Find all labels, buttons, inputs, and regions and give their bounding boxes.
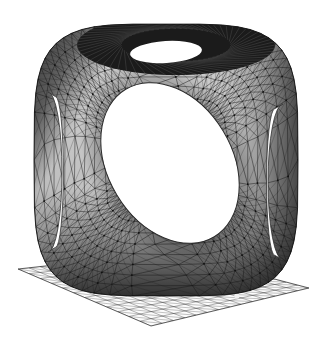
render-viewport: [0, 0, 336, 339]
mesh-render-canvas: [0, 0, 336, 339]
